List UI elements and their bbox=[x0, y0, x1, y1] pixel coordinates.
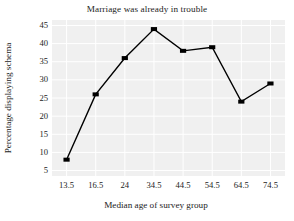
data-point-marker bbox=[238, 100, 244, 104]
y-axis-tick-label: 15 bbox=[24, 130, 48, 139]
y-axis-title: Percentage displaying schema bbox=[3, 43, 13, 154]
y-axis-tick-labels: 51015202530354045 bbox=[22, 0, 48, 221]
data-point-markers bbox=[63, 27, 273, 162]
x-axis-tick-labels: 13.516.52434.544.554.564.574.5 bbox=[52, 180, 285, 194]
data-point-marker bbox=[122, 56, 128, 60]
y-axis-tick-label: 30 bbox=[24, 75, 48, 84]
y-axis-tick-label: 25 bbox=[24, 94, 48, 103]
y-axis-tick-label: 35 bbox=[24, 57, 48, 66]
data-point-marker bbox=[180, 49, 186, 53]
plot-area bbox=[52, 20, 285, 176]
data-point-marker bbox=[63, 158, 69, 162]
y-axis-tick-label: 10 bbox=[24, 148, 48, 157]
x-axis-title: Median age of survey group bbox=[18, 200, 294, 210]
line-chart-svg bbox=[52, 20, 285, 176]
y-axis-tick-label: 40 bbox=[24, 39, 48, 48]
x-axis-tick-label: 74.5 bbox=[253, 180, 287, 190]
horizontal-gridlines bbox=[52, 25, 285, 170]
y-axis-title-container: Percentage displaying schema bbox=[0, 20, 16, 176]
data-point-marker bbox=[267, 81, 273, 85]
y-axis-tick-label: 45 bbox=[24, 21, 48, 30]
y-axis-tick-label: 20 bbox=[24, 112, 48, 121]
data-point-marker bbox=[151, 27, 157, 31]
y-axis-tick-label: 5 bbox=[24, 166, 48, 175]
chart-figure: Marriage was already in trouble Percenta… bbox=[0, 0, 294, 221]
data-point-marker bbox=[209, 45, 215, 49]
data-point-marker bbox=[93, 92, 99, 96]
